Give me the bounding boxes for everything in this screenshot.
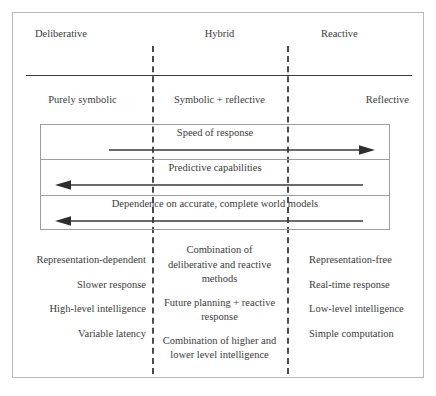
arrow-right-speed-of-response	[41, 143, 389, 157]
column-headers-row: Deliberative Hybrid Reactive	[13, 23, 423, 45]
column-header-deliberative: Deliberative	[13, 23, 152, 45]
trend-row-speed-of-response: Speed of response	[41, 125, 389, 160]
column-subtitles-row: Purely symbolic Symbolic + reflective Re…	[13, 89, 423, 111]
column-header-reactive: Reactive	[287, 23, 423, 45]
column-header-hybrid: Hybrid	[152, 23, 287, 45]
attribute-item: Simple computation	[309, 327, 419, 342]
attribute-item: Representation-free	[309, 253, 419, 268]
spectrum-diagram: Deliberative Hybrid Reactive Purely symb…	[0, 0, 436, 396]
spectrum-axis-rule	[26, 75, 412, 76]
attribute-item: Low-level intelligence	[309, 302, 419, 317]
attribute-item: Representation-dependent	[17, 253, 146, 268]
attribute-columns: Representation-dependent Slower response…	[13, 241, 423, 374]
attribute-item: Future planning + reactive response	[162, 296, 277, 325]
attribute-column-hybrid: Combination of deliberative and reactive…	[152, 241, 287, 374]
column-subtitle-reactive: Reflective	[287, 89, 423, 111]
trend-arrow-box: Speed of response Predictive capabilitie…	[40, 124, 390, 230]
attribute-column-reactive: Representation-free Real-time response L…	[287, 241, 423, 374]
attribute-item: Combination of higher and lower level in…	[162, 334, 277, 363]
diagram-frame: Deliberative Hybrid Reactive Purely symb…	[12, 12, 424, 378]
arrow-left-world-model-dependence	[41, 214, 389, 228]
arrow-left-predictive-capabilities	[41, 178, 389, 192]
attribute-item: High-level intelligence	[17, 302, 146, 317]
trend-label-predictive-capabilities: Predictive capabilities	[41, 162, 389, 173]
trend-row-predictive-capabilities: Predictive capabilities	[41, 160, 389, 195]
trend-row-world-model-dependence: Dependence on accurate, complete world m…	[41, 196, 389, 231]
attribute-item: Real-time response	[309, 278, 419, 293]
column-subtitle-deliberative: Purely symbolic	[13, 89, 152, 111]
attribute-item: Combination of deliberative and reactive…	[162, 243, 277, 287]
attribute-item: Variable latency	[17, 327, 146, 342]
trend-label-speed-of-response: Speed of response	[41, 127, 389, 138]
column-subtitle-hybrid: Symbolic + reflective	[152, 89, 287, 111]
attribute-column-deliberative: Representation-dependent Slower response…	[13, 241, 152, 374]
trend-label-world-model-dependence: Dependence on accurate, complete world m…	[41, 198, 389, 209]
attribute-item: Slower response	[17, 278, 146, 293]
